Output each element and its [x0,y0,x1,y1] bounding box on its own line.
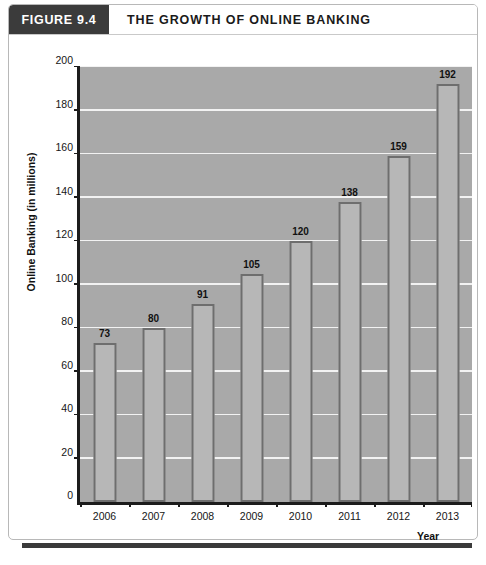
x-axis-tick-mark [325,502,327,507]
bar-group: 1052009 [227,67,276,502]
bar-value-label: 192 [439,69,456,80]
figure-card: FIGURE 9.4 THE GROWTH OF ONLINE BANKING … [8,4,478,540]
bar-group: 1592012 [374,67,423,502]
y-axis-tick-label: 100 [55,272,73,284]
bar-group: 802007 [129,67,178,502]
bar [142,328,165,502]
figure-header: FIGURE 9.4 THE GROWTH OF ONLINE BANKING [9,5,477,35]
y-axis-title: Online Banking (in millions) [25,122,37,322]
bar-group: 912008 [178,67,227,502]
bar-group: 1202010 [276,67,325,502]
bar-group: 1382011 [325,67,374,502]
x-axis-tick-label: 2008 [191,510,214,522]
y-axis-tick-label: 60 [61,359,73,371]
bar-value-label: 91 [197,289,208,300]
x-axis-tick-mark [227,502,229,507]
x-axis-tick-mark [471,502,473,507]
figure-title: THE GROWTH OF ONLINE BANKING [109,5,477,34]
bar [289,241,312,502]
x-axis-tick-label: 2007 [142,510,165,522]
x-axis-tick-label: 2011 [338,510,361,522]
x-axis-title: Year [417,530,439,542]
bar [191,304,214,502]
x-axis-tick-mark [423,502,425,507]
x-axis-tick-mark [80,502,82,507]
y-axis-tick-label: 0 [67,489,73,501]
x-axis-tick-label: 2006 [93,510,116,522]
y-axis-tick-label: 120 [55,228,73,240]
x-axis-tick-label: 2012 [387,510,410,522]
x-axis-tick-label: 2009 [240,510,263,522]
bar-value-label: 138 [341,187,358,198]
x-axis-tick-label: 2013 [436,510,459,522]
bar-group: 1922013 [423,67,472,502]
bar-value-label: 120 [292,226,309,237]
bar [387,156,410,502]
bar [436,84,459,502]
y-axis-tick-label: 140 [55,185,73,197]
bar [240,274,263,502]
y-axis-tick-label: 40 [61,402,73,414]
x-axis-tick-mark [276,502,278,507]
bar [93,343,116,502]
y-axis-tick-label: 200 [55,54,73,66]
y-axis-tick-label: 20 [61,446,73,458]
bar-value-label: 73 [99,328,110,339]
y-axis-tick-label: 160 [55,141,73,153]
x-axis-tick-mark [374,502,376,507]
bar-value-label: 80 [148,313,159,324]
chart-region: Online Banking (in millions) 02040608010… [9,36,477,540]
bar [338,202,361,502]
figure-caption [24,556,474,565]
plot-area: 0204060801001201401601802007320068020079… [77,67,472,505]
figure-number-badge: FIGURE 9.4 [9,5,109,34]
bar-group: 732006 [80,67,129,502]
bar-value-label: 105 [243,259,260,270]
y-axis-tick-label: 180 [55,98,73,110]
y-axis-tick-label: 80 [61,315,73,327]
bar-value-label: 159 [390,141,407,152]
footer-rule [22,543,472,548]
x-axis-tick-label: 2010 [289,510,312,522]
x-axis-tick-mark [129,502,131,507]
x-axis-tick-mark [178,502,180,507]
